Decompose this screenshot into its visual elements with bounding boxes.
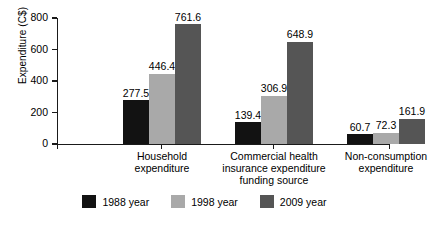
legend-item[interactable]: 1988 year — [82, 195, 149, 208]
legend-label: 2009 year — [280, 196, 327, 208]
x-axis-tick — [57, 145, 58, 149]
legend-item[interactable]: 1998 year — [171, 195, 238, 208]
x-axis-tick — [389, 145, 390, 149]
bar[interactable] — [347, 134, 373, 144]
bar-group: 60.772.3161.9 — [347, 18, 425, 144]
y-axis-tick-label: 800 — [30, 11, 48, 23]
bar[interactable] — [123, 100, 149, 144]
legend-swatch — [260, 195, 274, 208]
bar[interactable] — [287, 42, 313, 144]
legend-item[interactable]: 2009 year — [260, 195, 327, 208]
x-axis-tick — [161, 145, 162, 149]
bar[interactable] — [261, 96, 287, 144]
bar[interactable] — [373, 133, 399, 144]
y-axis-tick-label: 200 — [30, 106, 48, 118]
y-axis-title: Expenditure (C$) — [17, 0, 28, 106]
bar[interactable] — [399, 119, 425, 144]
bar[interactable] — [235, 122, 261, 144]
legend-label: 1988 year — [102, 196, 149, 208]
bar[interactable] — [149, 74, 175, 144]
y-axis-tick-label: 0 — [42, 137, 48, 149]
chart-legend: 1988 year1998 year2009 year — [0, 195, 409, 208]
x-axis-tick — [273, 145, 274, 149]
legend-label: 1998 year — [191, 196, 238, 208]
legend-swatch — [82, 195, 96, 208]
bar[interactable] — [175, 24, 201, 144]
bar-value-label: 761.6 — [166, 11, 210, 23]
bar-group: 277.5446.4761.6 — [123, 18, 201, 144]
y-axis-tick-label: 600 — [30, 43, 48, 55]
plot-area: 277.5446.4761.6139.4306.9648.960.772.316… — [57, 18, 390, 144]
bar-value-label: 648.9 — [278, 28, 322, 40]
bar-group: 139.4306.9648.9 — [235, 18, 313, 144]
x-axis-category-label: Non-consumption expenditure — [316, 150, 432, 174]
y-axis-tick-label: 400 — [30, 74, 48, 86]
legend-swatch — [171, 195, 185, 208]
bar-value-label: 161.9 — [390, 105, 432, 117]
